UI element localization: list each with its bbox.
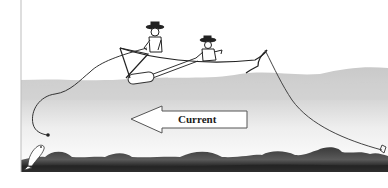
fisherman-standing — [144, 22, 164, 52]
fisherman-seated — [196, 36, 222, 61]
fishing-current-diagram: Current — [0, 0, 388, 188]
hook-weight — [46, 133, 50, 137]
current-label: Current — [178, 112, 244, 126]
